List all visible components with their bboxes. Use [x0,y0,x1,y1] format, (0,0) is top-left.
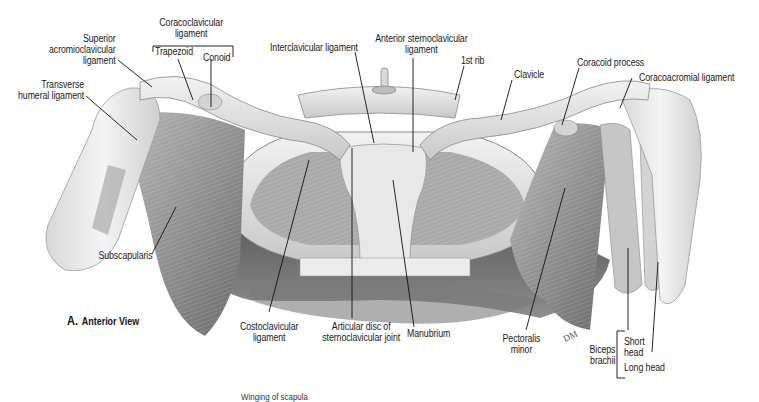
label-interclavicular-ligament: Interclavicular ligament [270,42,358,53]
label-line: Coracoclavicular [159,17,223,28]
label-line: sternoclavicular joint [322,332,400,343]
right-coracoid [554,120,578,136]
label-line: head [624,347,645,358]
figure-caption: A. Anterior View [67,311,139,329]
left-coracoid [198,94,222,110]
label-pectoralis-minor: Pectoralis minor [503,333,541,355]
caption-text: Anterior View [82,315,139,327]
label-first-rib: 1st rib [461,55,484,66]
label-line: Articular disc of [322,321,400,332]
label-line: Superior [50,33,116,44]
caption-letter: A. [67,313,78,328]
vertebra [298,68,460,118]
label-transverse-humeral-ligament: Transverse humeral ligament [18,79,84,101]
label-conoid: Conoid [203,52,230,63]
label-clavicle: Clavicle [514,69,544,80]
label-line: acromioclavicular [50,44,116,55]
label-line: brachii [589,355,615,366]
label-articular-disc: Articular disc of sternoclavicular joint [322,321,400,343]
label-line: minor [503,344,541,355]
label-line: humeral ligament [18,90,84,101]
label-biceps-brachii: Biceps brachii [589,344,615,366]
label-costoclavicular-ligament: Costoclavicular ligament [240,321,298,343]
label-line: Short [624,336,645,347]
artist-signature: DM [562,329,579,344]
label-coracoacromial-ligament: Coracoacromial ligament [639,72,734,83]
label-long-head: Long head [624,362,665,373]
label-line: Biceps [589,344,615,355]
partial-bottom-label: Winging of scapula [241,392,308,402]
label-short-head: Short head [624,336,645,358]
label-line: ligament [375,44,467,55]
label-line: Pectoralis [503,333,541,344]
label-coracoid-process: Coracoid process [577,57,644,68]
label-coracoclavicular-ligament: Coracoclavicular ligament [159,17,223,39]
label-trapezoid: Trapezoid [155,46,193,57]
label-line: Transverse [18,79,84,90]
label-manubrium: Manubrium [407,328,450,339]
label-superior-acromioclavicular-ligament: Superior acromioclavicular ligament [50,33,116,66]
label-line: Anterior sternoclavicular [375,33,467,44]
label-line: ligament [240,332,298,343]
label-line: Costoclavicular [240,321,298,332]
label-subscapularis: Subscapularis [99,250,153,261]
label-line: ligament [50,55,116,66]
label-line: ligament [159,28,223,39]
label-anterior-sternoclavicular-ligament: Anterior sternoclavicular ligament [375,33,467,55]
